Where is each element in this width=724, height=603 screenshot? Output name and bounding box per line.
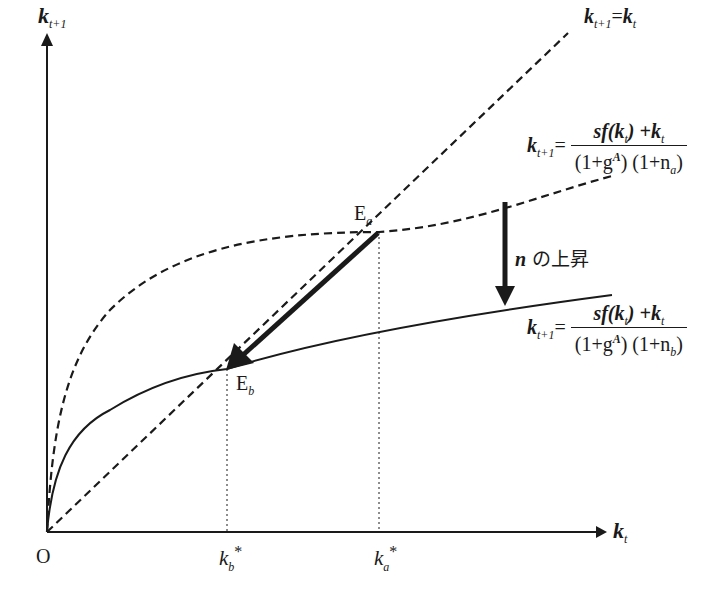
point-b-sub: b	[248, 384, 254, 398]
curve-a-denominator: (1+gA) (1+na)	[571, 146, 687, 176]
diag-line-label: kt+1=kt	[584, 5, 636, 28]
diag-eq: =	[611, 5, 622, 27]
kstar-b-main: k	[219, 546, 228, 570]
point-a-main: E	[354, 202, 366, 224]
point-a-label: Ea	[354, 202, 372, 225]
point-a-sub: a	[366, 214, 372, 228]
point-b-label: Eb	[236, 372, 254, 395]
diag-rhs: k	[623, 5, 633, 27]
kstar-a-label: ka*	[374, 546, 397, 571]
y-axis-label-sub: t+1	[49, 17, 66, 31]
curve-b-denominator: (1+gA) (1+nb)	[571, 328, 687, 358]
x-axis-label-sub: t	[624, 532, 627, 546]
diag-lhs: k	[584, 5, 594, 27]
curve-b-label: kt+1= sf(kt) +kt (1+gA) (1+nb)	[527, 302, 687, 358]
curve-a-lhs-sub: t+1	[537, 146, 554, 160]
point-b-main: E	[236, 372, 248, 394]
kstar-a-main: k	[374, 546, 383, 570]
curve-b-numerator: sf(kt) +kt	[571, 302, 687, 328]
x-axis-label-main: k	[613, 518, 624, 543]
curve-b-lhs: k	[527, 316, 537, 338]
kstar-b-sup: *	[234, 543, 242, 560]
curve-a-eq: =	[554, 134, 565, 156]
curve-b-eq: =	[554, 316, 565, 338]
y-axis-label-main: k	[38, 3, 49, 28]
kstar-b-label: kb*	[219, 546, 242, 571]
shift-annotation-text: の上昇	[526, 248, 589, 270]
x-axis-arrow-icon	[596, 526, 607, 538]
curve-a-fraction: sf(kt) +kt (1+gA) (1+na)	[571, 120, 687, 176]
curve-b-fraction: sf(kt) +kt (1+gA) (1+nb)	[571, 302, 687, 358]
y-axis-arrow-icon	[41, 33, 53, 46]
diag-lhs-sub: t+1	[594, 17, 611, 31]
curve-a-label: kt+1= sf(kt) +kt (1+gA) (1+na)	[527, 120, 687, 176]
origin-label: O	[36, 545, 50, 568]
y-axis-label: kt+1	[38, 3, 66, 29]
diag-line	[47, 33, 568, 532]
shift-annotation: n の上昇	[515, 244, 589, 271]
shift-arrowhead-icon	[495, 286, 515, 306]
shift-annotation-var: n	[515, 248, 526, 270]
curve-b-lhs-sub: t+1	[537, 328, 554, 342]
x-axis-label: kt	[613, 518, 627, 544]
kstar-b-sub: b	[228, 560, 234, 574]
kstar-a-sup: *	[389, 543, 397, 560]
curve-a-numerator: sf(kt) +kt	[571, 120, 687, 146]
diag-rhs-sub: t	[633, 17, 636, 31]
curve-a-lhs: k	[527, 134, 537, 156]
kstar-a-sub: a	[383, 560, 389, 574]
